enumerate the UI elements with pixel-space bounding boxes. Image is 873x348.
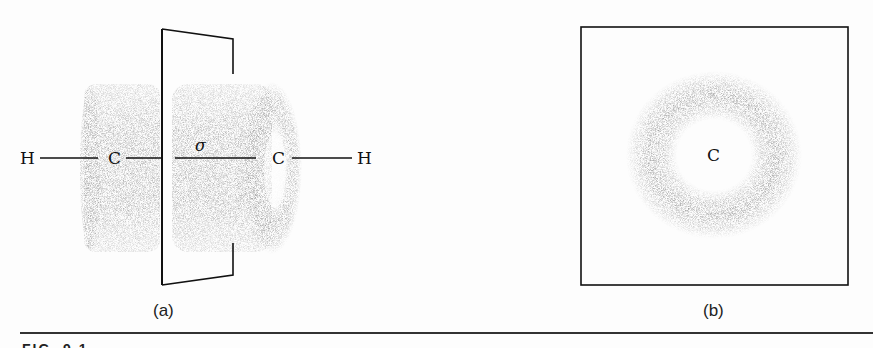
atom-h-left: H <box>20 148 35 168</box>
caption-a: (a) <box>153 301 174 321</box>
atom-c-right: C <box>272 148 285 168</box>
figure-number: FIG. 9.1 <box>22 341 89 348</box>
atom-c-left: C <box>108 148 121 168</box>
diagram-canvas <box>0 0 873 348</box>
caption-divider <box>20 332 873 334</box>
left-electron-cloud <box>80 84 160 252</box>
caption-b: (b) <box>703 301 724 321</box>
panel-a <box>40 29 352 285</box>
center-atom-c: C <box>707 145 720 165</box>
atom-h-right: H <box>357 148 372 168</box>
sigma-bond-label: σ <box>195 136 206 155</box>
